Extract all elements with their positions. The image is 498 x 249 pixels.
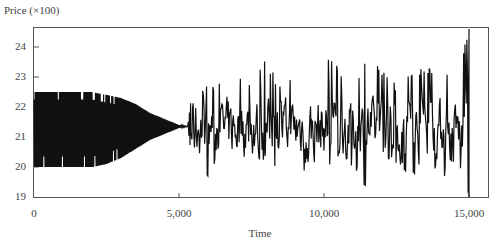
y-axis-label: Price (×100) — [4, 4, 59, 16]
x-tick-label: 0 — [4, 207, 64, 219]
x-tick-label: 10,000 — [294, 207, 354, 219]
x-tick-label: 15,000 — [439, 207, 498, 219]
x-tick-label: 5,000 — [149, 207, 209, 219]
y-tick-label: 21 — [2, 130, 26, 142]
y-tick-label: 23 — [2, 70, 26, 82]
y-tick-label: 22 — [2, 100, 26, 112]
x-axis-label: Time — [0, 227, 498, 239]
y-tick-label: 19 — [2, 190, 26, 202]
y-tick-label: 20 — [2, 160, 26, 172]
price-time-series-chart — [0, 0, 498, 249]
x-axis-ticks — [179, 193, 469, 197]
price-line — [34, 29, 469, 197]
y-tick-label: 24 — [2, 40, 26, 52]
